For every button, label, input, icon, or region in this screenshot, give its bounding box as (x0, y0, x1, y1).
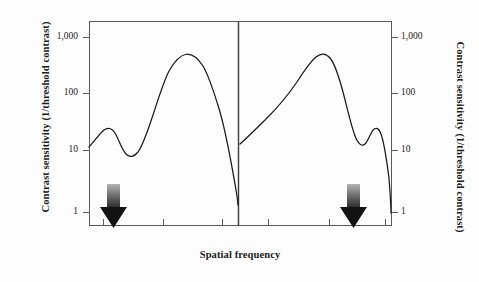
down-arrow-left (100, 184, 127, 228)
x-axis-ticks-right (269, 219, 386, 226)
y-axis-title-right: Contrast sensitivity (1/threshold contra… (455, 22, 466, 252)
y-axis-ticks-left (83, 38, 90, 213)
y-tick-label-right-10: 10 (401, 144, 441, 154)
curve-right-panel (240, 54, 391, 213)
y-tick-label-right-1: 1 (401, 206, 441, 216)
y-tick-label-right-1000: 1,000 (401, 31, 441, 41)
down-arrow-right (340, 184, 367, 228)
y-axis-ticks-right (392, 38, 399, 213)
y-tick-label-right-100: 100 (401, 87, 441, 97)
x-axis-ticks-left (104, 219, 223, 226)
y-axis-title-left: Contrast sensitivity (1/threshold contra… (40, 2, 51, 232)
plot-frame (90, 22, 392, 226)
contrast-sensitivity-figure: 1,000 100 10 1 1,000 100 10 1 Contrast s… (0, 0, 479, 282)
plot-area (0, 0, 479, 282)
x-axis-title: Spatial frequency (140, 249, 340, 260)
curve-left-panel (89, 54, 238, 205)
